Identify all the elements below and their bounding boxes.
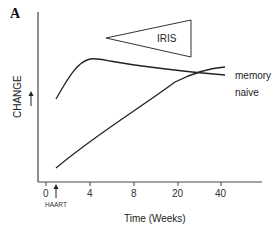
x-tick-0: 0 [43,188,49,199]
haart-label: HAART [45,201,67,208]
x-tick-40: 40 [215,188,227,199]
x-tick-20: 20 [172,188,184,199]
memory-curve [56,59,225,99]
y-axis-title: CHANGE [12,75,23,118]
naive-label: naive [235,87,259,98]
iris-label: IRIS [157,33,177,44]
haart-arrow-icon [54,184,59,198]
memory-label: memory [235,70,271,81]
y-axis-up-arrow-icon [29,91,34,106]
naive-curve [56,67,225,168]
panel-label: A [10,6,21,21]
x-tick-8: 8 [131,188,137,199]
x-ticks [46,182,221,186]
x-axis-title: Time (Weeks) [124,213,186,224]
iris-chart: A CHANGE 0 4 8 20 40 HAART Time (Weeks) … [0,0,277,231]
x-tick-4: 4 [87,188,93,199]
iris-wedge [106,20,191,57]
